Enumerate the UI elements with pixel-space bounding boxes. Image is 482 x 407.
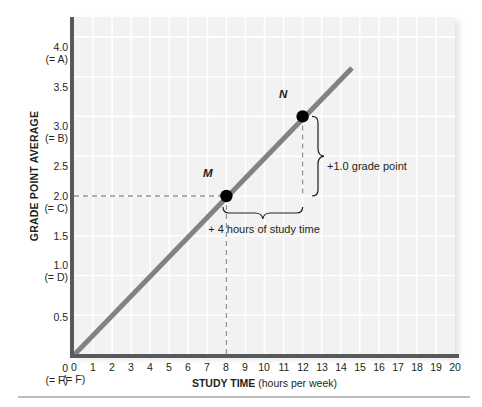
y-tick-grade: (= A) xyxy=(6,53,68,65)
x-tick-value: 9 xyxy=(242,361,248,373)
x-tick-value: 15 xyxy=(354,361,366,373)
y-tick-value: 2.0 xyxy=(53,190,68,202)
vertical-gridlines xyxy=(93,17,436,355)
x-tick-value: 19 xyxy=(430,361,442,373)
x-tick-20: 20 xyxy=(443,361,467,373)
y-tick-1-0: 1.0 (= D) xyxy=(6,259,68,283)
point-label-n: N xyxy=(279,88,287,100)
y-tick-value: 3.0 xyxy=(53,120,68,132)
footer-rule xyxy=(18,396,470,398)
y-tick-4-0: 4.0 (= A) xyxy=(6,41,68,65)
annotation-grade-point: +1.0 grade point xyxy=(327,160,407,173)
y-tick-grade: (= F) xyxy=(6,374,68,386)
y-axis-line xyxy=(70,17,74,358)
y-tick-value: 1.0 xyxy=(53,259,68,271)
x-tick-value: 1 xyxy=(90,361,96,373)
plot-graphics xyxy=(74,17,455,355)
x-tick-value: 6 xyxy=(185,361,191,373)
x-tick-value: 12 xyxy=(297,361,309,373)
x-axis-title-main: STUDY TIME xyxy=(192,377,255,389)
x-tick-value: 4 xyxy=(147,361,153,373)
y-tick-2-0: 2.0 (= C) xyxy=(6,190,68,214)
x-tick-value: 7 xyxy=(204,361,210,373)
x-tick-value: 3 xyxy=(128,361,134,373)
data-point-n xyxy=(296,110,308,122)
grade-line xyxy=(74,68,352,355)
y-tick-value: 1.5 xyxy=(53,230,68,242)
y-tick-labels: 4.0 (= A) 3.5 3.0 (= B) 2.5 2.0 (= C) 1.… xyxy=(0,0,68,407)
x-tick-value: 14 xyxy=(335,361,347,373)
x-axis-line xyxy=(70,354,459,358)
x-tick-value: 13 xyxy=(316,361,328,373)
x-tick-value: 8 xyxy=(223,361,229,373)
x-tick-value: 2 xyxy=(109,361,115,373)
x-tick-value: 17 xyxy=(392,361,404,373)
y-tick-grade: (= D) xyxy=(6,271,68,283)
y-tick-value: 2.5 xyxy=(53,160,68,172)
point-label-m: M xyxy=(203,167,213,179)
y-tick-value: 0.5 xyxy=(53,311,68,323)
x-axis-title-note: (hours per week) xyxy=(255,377,337,389)
y-tick-grade: (= C) xyxy=(6,202,68,214)
x-tick-value: 0 xyxy=(71,361,77,373)
x-tick-value: 10 xyxy=(258,361,270,373)
plot-area: M N +1.0 grade point + 4 hours of study … xyxy=(74,17,455,355)
y-tick-3-0: 3.0 (= B) xyxy=(6,120,68,144)
y-tick-1-5: 1.5 xyxy=(6,230,68,242)
x-tick-value: 5 xyxy=(166,361,172,373)
y-tick-2-5: 2.5 xyxy=(6,160,68,172)
y-tick-0-5: 0.5 xyxy=(6,311,68,323)
y-tick-grade: (= B) xyxy=(6,132,68,144)
y-tick-0: 0 (= F) xyxy=(6,362,68,386)
y-tick-value: 3.5 xyxy=(53,81,68,93)
annotation-study-time: + 4 hours of study time xyxy=(208,223,320,236)
brace-study-time xyxy=(223,207,303,219)
x-tick-value: 18 xyxy=(411,361,423,373)
y-tick-value: 4.0 xyxy=(53,41,68,53)
y-tick-3-5: 3.5 xyxy=(6,81,68,93)
x-axis-title: STUDY TIME (hours per week) xyxy=(74,377,455,389)
data-point-m xyxy=(220,190,232,202)
chart-figure: M N +1.0 grade point + 4 hours of study … xyxy=(0,0,482,407)
x-tick-value: 16 xyxy=(373,361,385,373)
x-tick-value: 11 xyxy=(279,361,290,373)
x-tick-value: 20 xyxy=(449,361,461,373)
